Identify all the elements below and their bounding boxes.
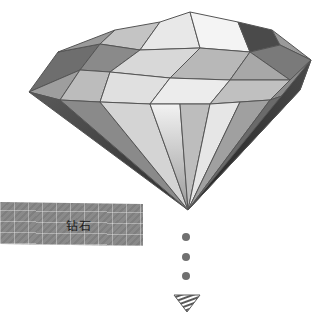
label-banner: 钻石: [0, 202, 143, 246]
indicator-dot: [182, 253, 190, 261]
label-text: 钻石: [52, 215, 92, 233]
down-arrow-icon: [172, 293, 202, 313]
diamond-crown: [29, 12, 311, 104]
indicator-dot: [182, 233, 190, 241]
diamond-illustration: [0, 0, 327, 321]
indicator-dot: [182, 272, 190, 280]
